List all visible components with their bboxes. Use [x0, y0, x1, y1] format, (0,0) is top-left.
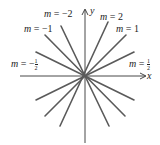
label-value: 1: [134, 23, 139, 34]
x-label-text: x: [147, 70, 151, 81]
label-eq: =: [21, 58, 27, 69]
label-m-neg-half: m = −12: [11, 58, 38, 71]
label-value: −1: [42, 23, 53, 34]
numerator: 1: [147, 58, 150, 65]
label-eq: =: [139, 58, 145, 69]
y-axis-label: y: [90, 6, 94, 16]
label-eq: =: [110, 11, 116, 22]
label-var: m: [116, 23, 123, 34]
label-value: 2: [118, 11, 123, 22]
label-var: m: [129, 58, 136, 69]
label-m-neg-2: m = −2: [44, 9, 73, 19]
denominator: 2: [147, 65, 150, 71]
label-var: m: [44, 8, 51, 19]
numerator: 1: [35, 58, 38, 65]
label-m-half: m = 12: [129, 58, 150, 71]
label-eq: =: [126, 23, 132, 34]
label-m-2: m = 2: [100, 12, 123, 22]
label-m-1: m = 1: [116, 24, 139, 34]
label-var: m: [24, 23, 31, 34]
label-eq: =: [54, 8, 60, 19]
fraction: 12: [147, 58, 150, 71]
label-eq: =: [34, 23, 40, 34]
label-value: −2: [62, 8, 73, 19]
fraction: 12: [35, 58, 38, 71]
label-m-neg-1: m = −1: [24, 24, 53, 34]
y-label-text: y: [90, 5, 94, 16]
x-axis-label: x: [147, 71, 151, 81]
denominator: 2: [35, 65, 38, 71]
slope-diagram: [0, 0, 160, 145]
label-var: m: [11, 58, 18, 69]
label-var: m: [100, 11, 107, 22]
